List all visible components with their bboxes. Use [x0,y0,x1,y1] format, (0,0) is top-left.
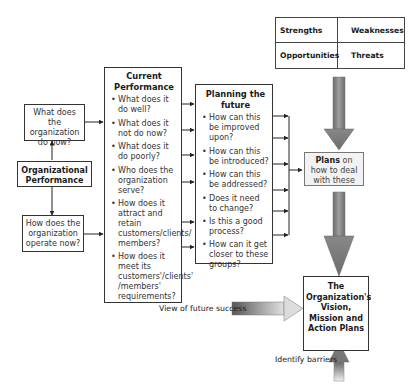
vision-box: The Organization's Vision, Mission and A… [303,276,369,351]
plans-down-arrow [324,192,354,276]
swot-threats: Threats [338,43,404,68]
planning-future-list: How can this be improved upon? How can t… [202,113,269,270]
planning-future-box: Planning the future How can this be impr… [195,84,273,264]
current-performance-list: What does it do well? What does it not d… [111,95,177,302]
list-item: Does it need to change? [202,194,269,214]
barriers-label: Identify barriers [275,355,337,364]
swot-grid: Strengths Weaknesses Opportunities Threa… [275,17,405,69]
swot-weaknesses: Weaknesses [338,18,404,43]
current-performance-box: Current Performance What does it do well… [104,67,182,303]
list-item: Who does the organization serve? [111,166,177,196]
list-item: How can this be addressed? [202,170,269,190]
list-item: Is this a good process? [202,217,269,237]
planning-future-title: Planning the future [202,89,269,110]
list-item: How can it get closer to these groups? [202,240,269,270]
swot-down-arrow [324,77,354,150]
current-performance-title: Current Performance [111,71,177,92]
list-item: How can this be improved upon? [202,113,269,143]
vision-text: The Organization's Vision, Mission and A… [306,282,366,335]
plans-bold-text: Plans [316,156,340,165]
swot-opportunities: Opportunities [276,43,338,68]
list-item: How does it meet its customers'/clients'… [111,252,177,302]
how-org-operates-box: How does the organization operate now? [22,215,84,252]
organizational-performance-box: Organizational Performance [17,161,92,187]
list-item: What does it do poorly? [111,142,177,162]
list-item: How does it attract and retain customers… [111,199,177,249]
list-item: What does it do well? [111,95,177,115]
what-org-does-box: What does the organization do now? [24,104,85,141]
list-item: What does it not do now? [111,119,177,139]
organizational-performance-text: Organizational Performance [20,166,89,185]
how-org-operates-text: How does the organization operate now? [26,219,81,248]
swot-strengths: Strengths [276,18,338,43]
future-success-label: View of future success [159,304,246,313]
plans-box: Plans on how to deal with these [304,152,364,186]
list-item: How can this be introduced? [202,147,269,167]
